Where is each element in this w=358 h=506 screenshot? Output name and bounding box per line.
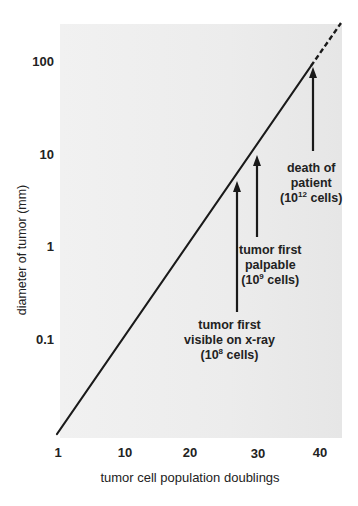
y-tick-0-1: 0.1 [14, 332, 54, 347]
arrowhead-xray [233, 181, 241, 192]
annotation-death-line1: death of [280, 161, 342, 176]
annotation-death-line2: patient [280, 176, 342, 191]
annotation-xray-line2: visible on x-ray [184, 333, 275, 348]
annotation-palpable-cells: (109 cells) [239, 273, 302, 288]
annotation-palpable: tumor first palpable (109 cells) [239, 243, 302, 288]
y-tick-10: 10 [14, 147, 54, 162]
x-tick-20: 20 [175, 445, 205, 460]
x-tick-40: 40 [305, 445, 335, 460]
x-tick-10: 10 [110, 445, 140, 460]
y-axis-label-text: diameter of tumor (mm) [15, 185, 29, 316]
x-tick-1: 1 [43, 445, 73, 460]
x-axis-label: tumor cell population doublings [40, 470, 340, 485]
annotation-xray-line1: tumor first [184, 318, 275, 333]
annotation-palpable-line2: palpable [239, 258, 302, 273]
x-tick-30: 30 [243, 446, 273, 461]
annotation-death-cells: (1012 cells) [280, 191, 342, 206]
annotation-palpable-line1: tumor first [239, 243, 302, 258]
annotation-xray-cells: (108 cells) [184, 348, 275, 363]
y-tick-100: 100 [14, 54, 54, 69]
annotation-death: death of patient (1012 cells) [280, 161, 342, 206]
growth-line-extrapolated [311, 23, 341, 66]
arrowhead-palpable [253, 155, 261, 166]
annotation-xray: tumor first visible on x-ray (108 cells) [184, 318, 275, 363]
